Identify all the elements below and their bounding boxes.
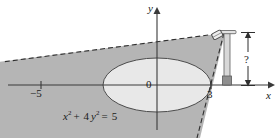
y-axis-label: y	[148, 3, 153, 14]
math-figure: y x 0 −5 3 ? x2+4y2=5	[0, 0, 280, 138]
equation-rhs: 5	[112, 110, 118, 122]
equation-exponent-2: 2	[96, 109, 100, 117]
lamp-pole-base	[223, 76, 232, 85]
x-tick-label-minus-5: −5	[30, 88, 42, 99]
origin-label: 0	[146, 79, 152, 90]
equation-plus: +	[73, 110, 79, 122]
height-unknown-label: ?	[244, 54, 249, 65]
equation-coefficient: 4	[84, 110, 90, 122]
figure-canvas	[0, 0, 280, 138]
equation-exponent-1: 2	[68, 109, 72, 117]
x-tick-label-3: 3	[207, 89, 213, 100]
x-axis-label: x	[266, 90, 271, 101]
equation-equals: =	[102, 110, 108, 122]
ellipse-equation-label: x2+4y2=5	[63, 110, 119, 122]
